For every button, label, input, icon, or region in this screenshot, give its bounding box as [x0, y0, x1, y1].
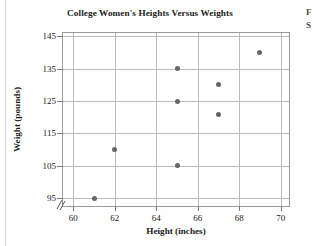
x-axis-tick-label: 68	[235, 213, 244, 223]
data-point	[257, 50, 262, 55]
data-point	[175, 99, 180, 104]
x-axis-tick	[73, 206, 74, 211]
x-axis-tick-label: 64	[152, 213, 161, 223]
y-axis-tick-label: 145	[43, 31, 57, 41]
x-axis-tick-label: 66	[193, 213, 202, 223]
side-caption-line: S	[306, 19, 322, 32]
data-point	[175, 163, 180, 168]
x-axis-tick	[281, 206, 282, 211]
y-axis-tick-label: 115	[43, 128, 56, 138]
data-points-layer	[63, 33, 289, 206]
y-axis-tick	[57, 101, 63, 102]
x-axis-tick	[198, 206, 199, 211]
chart-title: College Women's Heights Versus Weights	[0, 8, 300, 18]
y-axis-title: Weight (pounds)	[12, 32, 26, 207]
y-axis-tick	[57, 166, 63, 167]
x-axis-tick-label: 62	[110, 213, 119, 223]
y-axis-tick-label: 105	[43, 161, 57, 171]
data-point	[216, 82, 221, 87]
data-point	[175, 66, 180, 71]
data-point	[92, 196, 97, 201]
x-axis-tick	[239, 206, 240, 211]
data-point	[216, 112, 221, 117]
side-caption-fragment: FS	[306, 6, 322, 32]
y-axis-tick	[57, 36, 63, 37]
x-axis-title: Height (inches)	[62, 226, 290, 236]
y-axis-tick	[57, 69, 63, 70]
x-axis-tick	[115, 206, 116, 211]
y-axis-tick-label: 125	[43, 96, 57, 106]
side-caption-line: F	[306, 6, 322, 19]
x-axis-tick-label: 70	[276, 213, 285, 223]
y-axis-tick-label: 95	[47, 193, 56, 203]
y-axis-tick-label: 135	[43, 64, 57, 74]
axis-break-icon	[56, 197, 70, 211]
scatter-plot-figure: College Women's Heights Versus Weights 9…	[0, 0, 300, 246]
data-point	[112, 147, 117, 152]
x-axis-tick-label: 60	[69, 213, 78, 223]
y-axis-tick	[57, 133, 63, 134]
x-axis-tick	[156, 206, 157, 211]
plot-area: 95105115125135145 606264666870	[62, 32, 290, 207]
